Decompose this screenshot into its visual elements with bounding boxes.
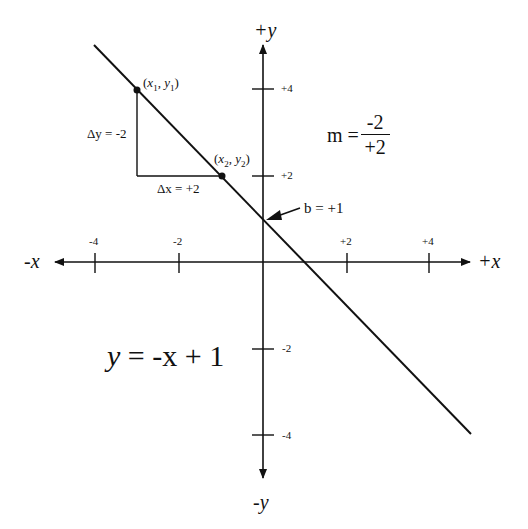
equation-lhs: y xyxy=(107,339,120,372)
coordinate-plane xyxy=(0,0,528,529)
y-tick-label: +4 xyxy=(281,83,293,94)
x-tick-label: +4 xyxy=(422,236,434,247)
delta-x-label: Δx = +2 xyxy=(157,182,200,195)
x-tick-label: -4 xyxy=(89,236,98,247)
point-1-label: (x1, y1) xyxy=(143,76,179,93)
slope-denominator: +2 xyxy=(365,135,386,157)
y-positive-label: +y xyxy=(254,20,276,40)
point-1-marker xyxy=(134,87,141,94)
slope-numerator: -2 xyxy=(361,112,390,135)
delta-y-label: Δy = -2 xyxy=(87,127,127,140)
slope-formula: m = -2 +2 xyxy=(327,112,390,157)
point-2-label: (x2, y2) xyxy=(214,152,250,169)
function-line xyxy=(94,45,471,434)
equation-rhs: = -x + 1 xyxy=(128,339,224,372)
slope-prefix: m = xyxy=(327,125,359,145)
x-tick-marks xyxy=(95,253,429,273)
x-positive-label: +x xyxy=(478,251,500,271)
intercept-label: b = +1 xyxy=(304,201,343,216)
slope-fraction: -2 +2 xyxy=(361,112,390,157)
x-tick-label: -2 xyxy=(173,236,182,247)
x-negative-label: -x xyxy=(24,251,40,271)
x-tick-label: +2 xyxy=(340,236,352,247)
point-2-marker xyxy=(219,173,226,180)
y-tick-label: -2 xyxy=(282,343,291,354)
intercept-arrow-icon xyxy=(266,208,300,220)
y-tick-label: +2 xyxy=(281,170,293,181)
y-tick-label: -4 xyxy=(282,430,291,441)
line-equation: y = -x + 1 xyxy=(107,341,224,371)
y-negative-label: -y xyxy=(253,492,269,512)
